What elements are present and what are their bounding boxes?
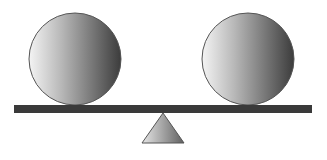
- right-ball: [202, 13, 294, 105]
- left-ball: [29, 13, 121, 105]
- fulcrum-triangle: [142, 113, 184, 143]
- balance-beam: [14, 105, 312, 113]
- balance-diagram: [0, 0, 327, 160]
